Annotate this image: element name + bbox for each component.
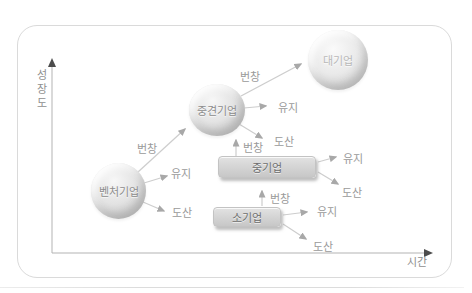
- arrow-small-maintain: [283, 212, 307, 215]
- edge-label-medium-bankrupt: 도산: [342, 184, 362, 200]
- arrow-small-bankrupt: [283, 224, 306, 239]
- node-small-company: 소기업: [213, 207, 281, 227]
- node-medium-company: 중기업: [218, 156, 316, 178]
- node-venture-company: 벤처기업: [91, 163, 146, 219]
- edge-label-venture-bankrupt: 도산: [172, 204, 192, 220]
- edge-label-small-maintain: 유지: [317, 203, 337, 219]
- arrow-midsize-maintain: [244, 106, 266, 108]
- edge-label-small-bankrupt: 도산: [313, 238, 333, 254]
- arrow-medium-maintain: [318, 157, 336, 162]
- diagram-canvas: 성장도 시간 벤처기업 중견기업 대기업 중기업 소기업 번창 유지 도산 번창…: [0, 0, 472, 293]
- edge-label-small-prosper: 번창: [270, 190, 290, 206]
- node-medium-label: 중기업: [252, 159, 282, 175]
- node-midsize-label: 중견기업: [197, 102, 237, 118]
- edge-label-venture-prosper: 번창: [137, 140, 157, 156]
- edge-label-midsize-prosper: 번창: [240, 68, 260, 84]
- arrows-layer: [0, 0, 472, 293]
- edge-label-medium-prosper: 번창: [243, 139, 263, 155]
- arrow-medium-bankrupt: [318, 172, 338, 184]
- y-axis-label: 성장도: [32, 69, 48, 111]
- edge-label-venture-maintain: 유지: [171, 165, 191, 181]
- arrow-midsize-bankrupt: [239, 124, 262, 138]
- node-midsize-company: 중견기업: [189, 84, 245, 136]
- node-large-label: 대기업: [323, 52, 353, 68]
- edge-label-midsize-bankrupt: 도산: [274, 133, 294, 149]
- arrow-venture-bankrupt: [143, 202, 164, 211]
- node-small-label: 소기업: [232, 209, 262, 225]
- x-axis-label: 시간: [407, 253, 427, 269]
- node-large-company: 대기업: [308, 30, 368, 90]
- arrow-venture-maintain: [144, 176, 167, 183]
- edge-label-midsize-maintain: 유지: [278, 99, 298, 115]
- node-venture-label: 벤처기업: [99, 183, 139, 199]
- edge-label-medium-maintain: 유지: [343, 150, 363, 166]
